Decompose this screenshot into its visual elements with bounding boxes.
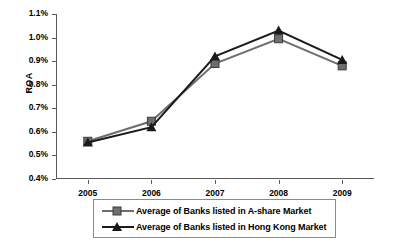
legend-key-triangle-icon	[100, 220, 136, 234]
y-axis-tick-label: 0.8%	[29, 79, 48, 89]
y-axis-tick-label: 0.5%	[29, 149, 48, 159]
y-axis-tick-label: 1.1%	[29, 8, 48, 18]
x-axis-tick-label: 2006	[121, 188, 181, 198]
legend-key-square-icon	[100, 204, 136, 218]
roa-line-chart: ROA 1.1%1.0%0.9%0.8%0.7%0.6%0.5%0.4% 200…	[0, 0, 393, 248]
x-axis-tick-label: 2008	[249, 188, 309, 198]
x-axis-tick-mark	[342, 180, 343, 184]
legend-item-a-share: Average of Banks listed in A-share Marke…	[100, 203, 335, 219]
x-axis-tick-mark	[279, 180, 280, 184]
y-axis-tick-mark	[52, 179, 56, 180]
y-axis-tick-label: 0.7%	[29, 102, 48, 112]
legend-label-hong-kong: Average of Banks listed in Hong Kong Mar…	[136, 222, 326, 232]
legend-item-hong-kong: Average of Banks listed in Hong Kong Mar…	[100, 219, 335, 235]
x-axis-tick-mark	[215, 180, 216, 184]
y-axis-tick-label: 0.4%	[29, 173, 48, 183]
x-axis-tick-label: 2005	[58, 188, 118, 198]
y-axis-tick-label: 0.9%	[29, 55, 48, 65]
x-axis-tick-mark	[88, 180, 89, 184]
y-axis-tick-label: 0.6%	[29, 126, 48, 136]
legend-label-a-share: Average of Banks listed in A-share Marke…	[136, 206, 311, 216]
series-plot	[56, 14, 374, 179]
y-axis-tick-label: 1.0%	[29, 32, 48, 42]
data-point-triangle-icon	[337, 55, 347, 64]
chart-legend: Average of Banks listed in A-share Marke…	[93, 199, 336, 238]
x-axis-tick-label: 2007	[185, 188, 245, 198]
x-axis-tick-mark	[151, 180, 152, 184]
data-point-square-icon	[275, 35, 283, 43]
x-axis-tick-label: 2009	[312, 188, 372, 198]
plot-area: 1.1%1.0%0.9%0.8%0.7%0.6%0.5%0.4% 2005200…	[56, 14, 374, 179]
series-line	[88, 31, 342, 143]
data-point-triangle-icon	[274, 26, 284, 35]
